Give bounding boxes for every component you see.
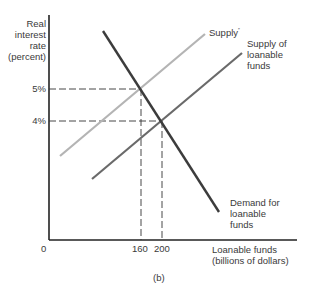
y-title-line: (percent): [0, 51, 46, 62]
demand-line-label: Demand for loanable funds: [230, 197, 280, 230]
supply-label-line: funds: [247, 60, 287, 71]
y-tick-5: 5%: [10, 83, 46, 94]
supply-shifted-label: Supply″: [209, 25, 240, 38]
supply-shifted-text: Supply: [209, 27, 238, 38]
supply-label-line: loanable: [247, 49, 287, 60]
supply-shifted-line: [60, 34, 205, 156]
demand-label-line: funds: [230, 219, 280, 230]
x-title-line: Loanable funds: [212, 244, 289, 255]
supply-shifted-sup: ″: [238, 27, 240, 33]
y-title-line: Real: [0, 18, 46, 29]
y-title-line: interest: [0, 29, 46, 40]
supply-line: [92, 53, 242, 179]
x-tick-200: 200: [154, 243, 170, 254]
x-title-line: (billions of dollars): [212, 255, 289, 266]
panel-label: (b): [153, 272, 165, 283]
x-axis-title: Loanable funds (billions of dollars): [212, 244, 289, 266]
y-tick-4: 4%: [10, 115, 46, 126]
demand-line: [103, 31, 219, 212]
demand-label-line: Demand for: [230, 197, 280, 208]
supply-line-label: Supply of loanable funds: [247, 38, 287, 71]
x-tick-0: 0: [41, 243, 46, 254]
supply-label-line: Supply of: [247, 38, 287, 49]
y-title-line: rate: [0, 40, 46, 51]
y-axis-title: Real interest rate (percent): [0, 18, 46, 62]
x-tick-160: 160: [132, 243, 148, 254]
demand-label-line: loanable: [230, 208, 280, 219]
